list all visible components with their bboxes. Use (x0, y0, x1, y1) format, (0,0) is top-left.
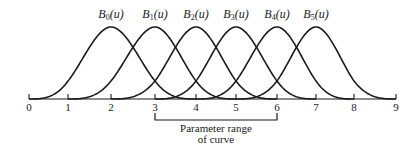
basis-curve-b3 (155, 27, 316, 99)
axis-tick-label: 3 (152, 101, 158, 113)
parameter-range-bracket (155, 113, 277, 120)
axis-tick-label: 8 (351, 101, 357, 113)
axis-tick-label: 4 (193, 101, 199, 113)
basis-label-b5: B5(u) (303, 7, 328, 22)
basis-label-b1: B1(u) (142, 7, 167, 22)
axis-tick-label: 2 (108, 101, 114, 113)
parameter-range-label-line2: of curve (198, 133, 234, 145)
basis-curve-b4 (196, 27, 354, 99)
b-spline-basis-diagram: 0123456789 B0(u)B1(u)B2(u)B3(u)B4(u)B5(u… (0, 0, 419, 147)
basis-label-b0: B0(u) (98, 7, 123, 22)
basis-curve-b2 (111, 27, 277, 99)
basis-label-b4: B4(u) (264, 7, 289, 22)
axis-tick-label: 7 (313, 101, 319, 113)
axis-tick-label: 5 (233, 101, 239, 113)
axis-tick-label: 9 (393, 101, 399, 113)
basis-function-labels: B0(u)B1(u)B2(u)B3(u)B4(u)B5(u) (98, 7, 328, 22)
basis-label-b3: B3(u) (223, 7, 248, 22)
basis-curve-b5 (236, 27, 396, 99)
basis-curve-b0 (29, 27, 196, 99)
axis-ticks: 0123456789 (26, 94, 399, 113)
basis-curves (29, 27, 396, 99)
basis-label-b2: B2(u) (183, 7, 208, 22)
axis-tick-label: 6 (274, 101, 280, 113)
axis-tick-label: 1 (65, 101, 71, 113)
axis-tick-label: 0 (26, 101, 32, 113)
